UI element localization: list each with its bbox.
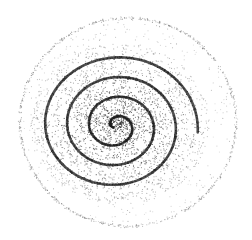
stipple-spiral-drawing xyxy=(0,0,252,240)
stipple-dots xyxy=(18,16,238,228)
spiral-illustration: Hand-drawn style stipple illustration of… xyxy=(0,0,252,240)
